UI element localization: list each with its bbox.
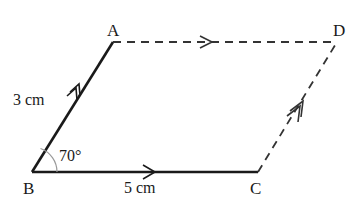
parallelogram-diagram: A B C D 3 cm 5 cm 70° [0,0,363,209]
vertex-label-a: A [107,21,120,40]
side-label-ab: 3 cm [13,91,45,108]
side-label-bc: 5 cm [124,179,156,196]
vertex-label-d: D [333,21,345,40]
vertex-label-b: B [23,179,34,198]
vertex-label-c: C [250,179,261,198]
angle-label-b: 70° [59,147,81,164]
